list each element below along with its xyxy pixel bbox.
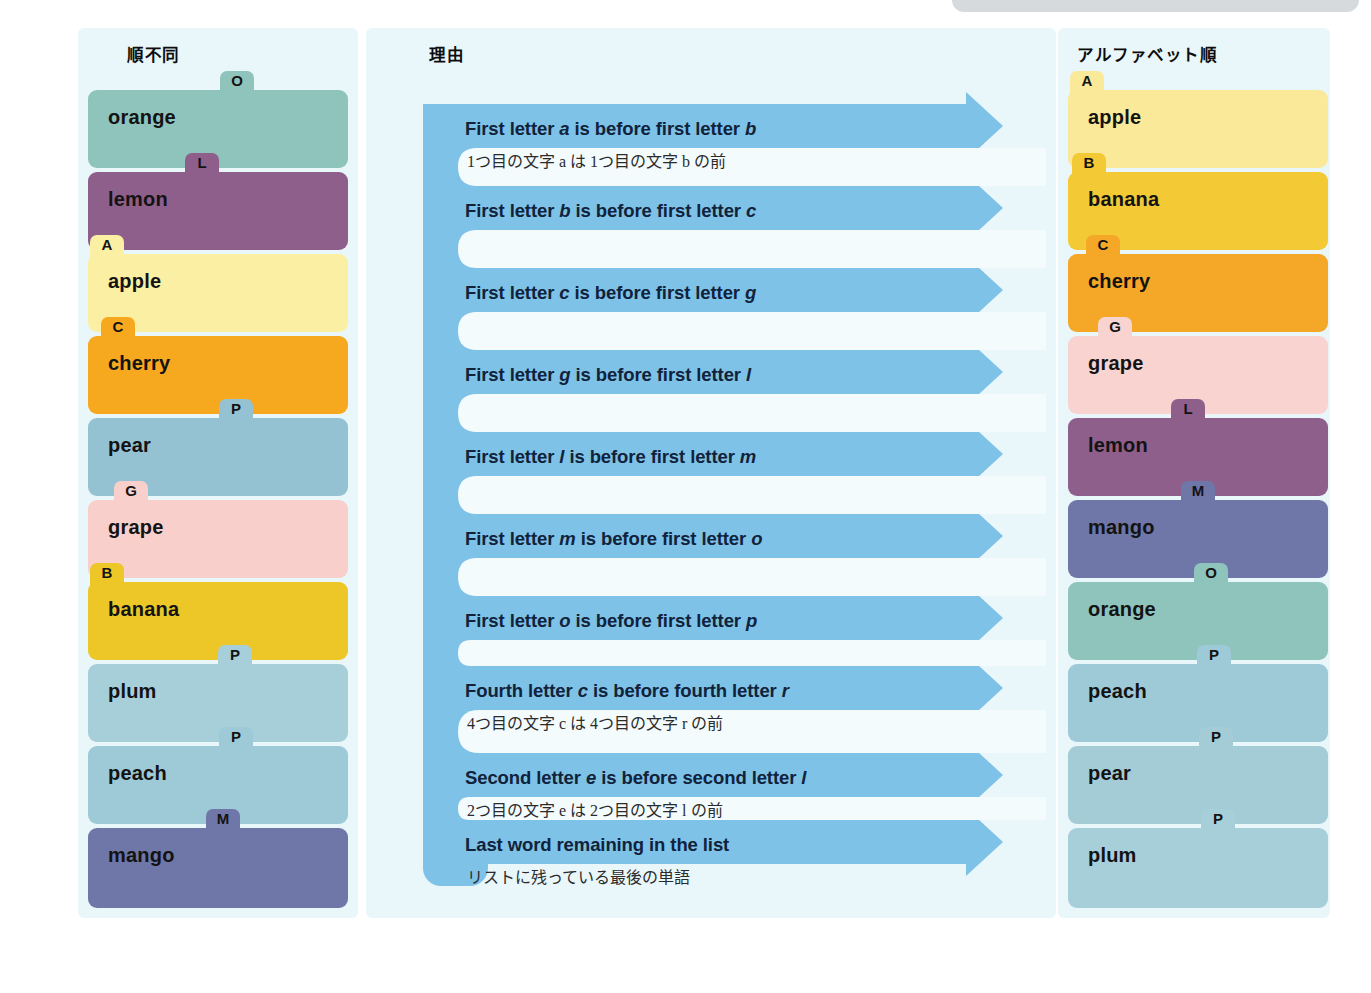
list-item-label: plum: [108, 680, 157, 703]
list-item-label: pear: [108, 434, 151, 457]
tab-letter: P: [230, 645, 240, 664]
folder-tab: A: [1070, 71, 1104, 95]
arrow-comb: First letter a is before first letter b1…: [366, 28, 1056, 918]
list-item-label: grape: [1088, 352, 1143, 375]
reason-text-jp: リストに残っている最後の単語: [467, 864, 690, 888]
list-item[interactable]: Ccherry: [88, 336, 348, 414]
sorted-list-panel: アルファベット順 AappleBbananaCcherryGgrapeLlemo…: [1058, 28, 1330, 918]
reason-text-en: First letter l is before first letter m: [465, 446, 756, 468]
folder-tab: C: [101, 317, 135, 341]
reason-text-jp: 4つ目の文字 c は 4つ目の文字 r の前: [467, 710, 723, 734]
folder-tab: P: [219, 727, 253, 751]
tab-letter: M: [217, 809, 230, 828]
folder-tab: G: [114, 481, 148, 505]
folder-tab: P: [1197, 645, 1231, 669]
unsorted-list-title: 順不同: [127, 42, 180, 66]
folder-tab: G: [1098, 317, 1132, 341]
arrow-notch: [458, 476, 1046, 514]
reason-text-en: First letter m is before first letter o: [465, 528, 762, 550]
tab-letter: B: [102, 563, 113, 582]
tab-letter: L: [1183, 399, 1192, 418]
unsorted-list-panel: 順不同 OorangeLlemonAappleCcherryPpearGgrap…: [78, 28, 358, 918]
reason-text-en: First letter c is before first letter g: [465, 282, 756, 304]
folder-tab: P: [1199, 727, 1233, 751]
reasons-panel: 理由 First letter a is before first letter…: [366, 28, 1056, 918]
list-item-label: peach: [108, 762, 167, 785]
list-item-label: banana: [1088, 188, 1159, 211]
list-item-label: apple: [108, 270, 161, 293]
sorted-list-title: アルファベット順: [1077, 42, 1217, 66]
list-item-label: peach: [1088, 680, 1147, 703]
list-item[interactable]: Mmango: [88, 828, 348, 908]
folder-tab: O: [1194, 563, 1228, 587]
folder-tab: A: [90, 235, 124, 259]
tab-letter: P: [1211, 727, 1221, 746]
folder-tab: M: [1181, 481, 1215, 505]
list-item-label: pear: [1088, 762, 1131, 785]
arrow-notch: [458, 558, 1046, 596]
reason-text-en: First letter a is before first letter b: [465, 118, 756, 140]
arrow-notch: [458, 640, 1046, 666]
tab-letter: L: [197, 153, 206, 172]
list-item-label: lemon: [1088, 434, 1148, 457]
list-item-label: orange: [1088, 598, 1156, 621]
tab-letter: C: [1098, 235, 1109, 254]
reason-text-en: Last word remaining in the list: [465, 834, 729, 856]
arrow-notch: [458, 394, 1046, 432]
unsorted-card-stack: OorangeLlemonAappleCcherryPpearGgrapeBba…: [88, 90, 348, 912]
folder-tab: M: [206, 809, 240, 833]
folder-tab: C: [1086, 235, 1120, 259]
list-item[interactable]: Ppeach: [1068, 664, 1328, 742]
folder-tab: P: [218, 645, 252, 669]
tab-letter: C: [113, 317, 124, 336]
tab-letter: P: [231, 727, 241, 746]
list-item[interactable]: Pplum: [88, 664, 348, 742]
list-item[interactable]: Llemon: [88, 172, 348, 250]
folder-tab: B: [1072, 153, 1106, 177]
folder-tab: P: [219, 399, 253, 423]
list-item-label: orange: [108, 106, 176, 129]
tab-letter: P: [1213, 809, 1223, 828]
reason-text-en: First letter o is before first letter p: [465, 610, 757, 632]
list-item-label: mango: [1088, 516, 1155, 539]
tab-letter: O: [231, 71, 243, 90]
tab-letter: A: [102, 235, 113, 254]
list-item[interactable]: Pplum: [1068, 828, 1328, 908]
list-item-label: grape: [108, 516, 163, 539]
list-item-label: mango: [108, 844, 175, 867]
sorted-card-stack: AappleBbananaCcherryGgrapeLlemonMmangoOo…: [1068, 90, 1328, 912]
reason-text-jp: 2つ目の文字 e は 2つ目の文字 l の前: [467, 797, 723, 821]
list-item-label: cherry: [1088, 270, 1150, 293]
folder-tab: B: [90, 563, 124, 587]
tab-letter: A: [1082, 71, 1093, 90]
reason-text-en: Second letter e is before second letter …: [465, 767, 806, 789]
reason-text-jp: 1つ目の文字 a は 1つ目の文字 b の前: [467, 148, 726, 172]
arrow-notch: [458, 230, 1046, 268]
list-item[interactable]: Ppear: [1068, 746, 1328, 824]
reason-text-en: First letter g is before first letter l: [465, 364, 751, 386]
tab-letter: M: [1192, 481, 1205, 500]
tab-letter: G: [1109, 317, 1121, 336]
tab-letter: B: [1084, 153, 1095, 172]
arrow-notch: [458, 312, 1046, 350]
tab-letter: P: [231, 399, 241, 418]
list-item-label: plum: [1088, 844, 1137, 867]
tab-letter: P: [1209, 645, 1219, 664]
list-item-label: apple: [1088, 106, 1141, 129]
folder-tab: L: [1171, 399, 1205, 423]
reason-text-en: First letter b is before first letter c: [465, 200, 756, 222]
top-right-grey-pill: [952, 0, 1359, 12]
folder-tab: O: [220, 71, 254, 95]
list-item[interactable]: Aapple: [1068, 90, 1328, 168]
tab-letter: O: [1205, 563, 1217, 582]
tab-letter: G: [125, 481, 137, 500]
list-item-label: lemon: [108, 188, 168, 211]
folder-tab: L: [185, 153, 219, 177]
reason-text-en: Fourth letter c is before fourth letter …: [465, 680, 789, 702]
list-item[interactable]: Ggrape: [88, 500, 348, 578]
list-item-label: cherry: [108, 352, 170, 375]
folder-tab: P: [1201, 809, 1235, 833]
list-item-label: banana: [108, 598, 179, 621]
